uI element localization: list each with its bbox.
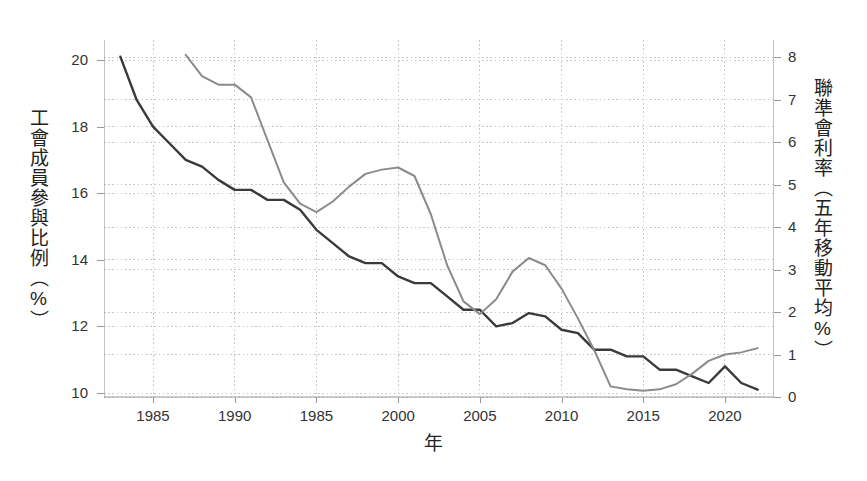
- left-tick-label: 10: [54, 384, 88, 401]
- x-tick-label: 2010: [532, 407, 592, 424]
- chart-figure: 工會成員參與比例（%） 聯準會利率（五年移動平均%） 年 10121416182…: [0, 0, 867, 481]
- right-tick-label: 1: [788, 346, 818, 363]
- right-tick-mark: [774, 57, 781, 58]
- right-tick-mark: [774, 185, 781, 186]
- right-tick-mark: [774, 100, 781, 101]
- chart-canvas: [104, 40, 774, 405]
- left-tick-label: 20: [54, 51, 88, 68]
- x-tick-label: 1985: [123, 407, 183, 424]
- right-tick-mark: [774, 142, 781, 143]
- plot-area: [104, 40, 774, 405]
- x-tick-label: 2020: [695, 407, 755, 424]
- right-tick-mark: [774, 270, 781, 271]
- left-tick-mark: [97, 127, 104, 128]
- right-tick-label: 0: [788, 388, 818, 405]
- right-tick-label: 4: [788, 218, 818, 235]
- right-tick-label: 8: [788, 48, 818, 65]
- series-line-fed-rate: [186, 55, 758, 391]
- x-tick-label: 2005: [450, 407, 510, 424]
- right-tick-mark: [774, 227, 781, 228]
- left-tick-label: 16: [54, 184, 88, 201]
- left-tick-mark: [97, 260, 104, 261]
- right-tick-label: 6: [788, 133, 818, 150]
- x-tick-label: 1985: [286, 407, 346, 424]
- right-tick-mark: [774, 397, 781, 398]
- left-tick-label: 14: [54, 251, 88, 268]
- left-tick-mark: [97, 326, 104, 327]
- right-tick-mark: [774, 355, 781, 356]
- right-tick-label: 2: [788, 303, 818, 320]
- x-tick-label: 2000: [368, 407, 428, 424]
- left-tick-label: 12: [54, 317, 88, 334]
- right-tick-label: 3: [788, 261, 818, 278]
- left-tick-mark: [97, 193, 104, 194]
- left-tick-mark: [97, 60, 104, 61]
- x-tick-label: 1990: [205, 407, 265, 424]
- series-line-union-membership: [120, 57, 757, 390]
- left-tick-mark: [97, 393, 104, 394]
- left-axis-title: 工會成員參與比例（%）: [28, 108, 48, 408]
- right-axis-title: 聯準會利率（五年移動平均%）: [812, 78, 832, 418]
- right-tick-mark: [774, 312, 781, 313]
- right-tick-label: 5: [788, 176, 818, 193]
- right-tick-label: 7: [788, 91, 818, 108]
- x-tick-label: 2015: [613, 407, 673, 424]
- left-tick-label: 18: [54, 118, 88, 135]
- x-axis-title: 年: [0, 428, 867, 455]
